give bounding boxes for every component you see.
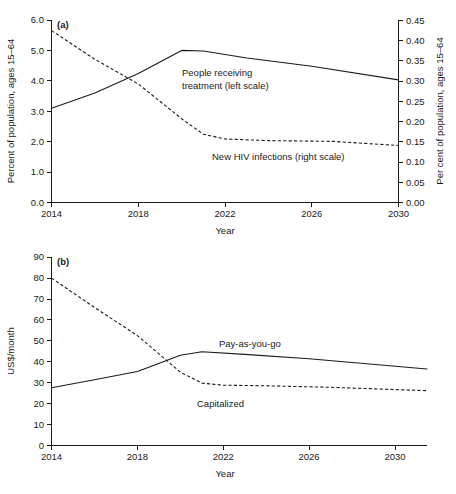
chart-a-label-treatment-line2: treatment (left scale): [182, 80, 269, 91]
chart-b-xtick-2022: 2022: [213, 451, 234, 462]
chart-a-right-ytick-4: 0.20: [406, 116, 425, 127]
chart-a-left-ticks: 0.0 1.0 2.0 3.0 4.0 5.0 6.0: [31, 14, 52, 208]
chart-a-x-ticks: 2014 2018 2022 2026 2030: [41, 203, 409, 220]
chart-a-ytick-5: 5.0: [31, 45, 44, 56]
chart-b-x-ticks: 2014 2018 2022 2026 2030: [41, 446, 406, 463]
chart-b-xtick-2018: 2018: [127, 451, 148, 462]
chart-a-xlabel: Year: [215, 225, 234, 236]
chart-a-right-ticks: 0.00 0.05 0.10 0.15 0.20 0.25 0.30 0.35 …: [399, 15, 425, 208]
chart-a-right-ytick-3: 0.15: [406, 136, 425, 147]
chart-b-xtick-2014: 2014: [41, 451, 62, 462]
chart-a-ylabel-right: Per cent of population, ages 15–64: [434, 37, 445, 184]
chart-a-ytick-3: 3.0: [31, 106, 44, 117]
chart-a-label-infections: New HIV infections (right scale): [212, 151, 345, 162]
chart-a-ytick-2: 2.0: [31, 136, 44, 147]
chart-b-ytick-10: 10: [33, 419, 44, 430]
chart-b-ytick-40: 40: [33, 356, 44, 367]
chart-a-ytick-4: 4.0: [31, 75, 44, 86]
chart-panel-b: 0 10 20 30 40 50 60 70 80 90 2014 2018 2…: [0, 244, 456, 494]
chart-a-ytick-1: 1.0: [31, 166, 44, 177]
chart-b-ytick-20: 20: [33, 398, 44, 409]
chart-b-xtick-2030: 2030: [384, 451, 405, 462]
chart-b-ytick-30: 30: [33, 377, 44, 388]
chart-a-panel-tag: (a): [57, 19, 69, 30]
chart-b-label-capitalized: Capitalized: [197, 398, 244, 409]
chart-b-panel-tag: (b): [57, 256, 69, 267]
chart-b-series-payg: [52, 352, 428, 388]
chart-a-right-ytick-2: 0.10: [406, 156, 425, 167]
chart-a-label-treatment-line1: People receiving: [182, 67, 252, 78]
chart-a-xtick-2022: 2022: [214, 208, 235, 219]
chart-a-xtick-2030: 2030: [388, 208, 409, 219]
chart-a-xtick-2018: 2018: [128, 208, 149, 219]
chart-a-xtick-2026: 2026: [301, 208, 322, 219]
chart-panel-a: 0.0 1.0 2.0 3.0 4.0 5.0 6.0 0.00 0.05 0.…: [0, 0, 456, 244]
chart-b-ytick-70: 70: [33, 293, 44, 304]
chart-a-right-ytick-9: 0.45: [406, 15, 425, 26]
chart-a-right-ytick-0: 0.00: [406, 197, 425, 208]
chart-b-ytick-90: 90: [33, 251, 44, 262]
chart-b-ytick-80: 80: [33, 272, 44, 283]
chart-b-ylabel: US$/month: [5, 327, 16, 375]
chart-a-ylabel: Percent of population, ages 15–64: [5, 39, 16, 184]
chart-a-right-ytick-7: 0.35: [406, 55, 425, 66]
chart-b-y-ticks: 0 10 20 30 40 50 60 70 80 90: [33, 251, 51, 450]
chart-a-xtick-2014: 2014: [41, 208, 62, 219]
chart-b-ytick-0: 0: [39, 440, 44, 451]
figure-container: 0.0 1.0 2.0 3.0 4.0 5.0 6.0 0.00 0.05 0.…: [0, 0, 456, 494]
chart-a-right-ytick-1: 0.05: [406, 177, 425, 188]
chart-b-ytick-50: 50: [33, 335, 44, 346]
chart-b-ytick-60: 60: [33, 314, 44, 325]
chart-a-ytick-0: 0.0: [31, 197, 44, 208]
chart-a-ytick-6: 6.0: [31, 14, 44, 25]
chart-a-right-ytick-8: 0.40: [406, 35, 425, 46]
chart-a-right-ytick-5: 0.25: [406, 96, 425, 107]
chart-b-xlabel: Year: [215, 468, 234, 479]
chart-b-label-payg: Pay-as-you-go: [219, 338, 281, 349]
chart-b-xtick-2026: 2026: [299, 451, 320, 462]
chart-b-series-capitalized: [52, 278, 428, 391]
chart-a-right-ytick-6: 0.30: [406, 75, 425, 86]
